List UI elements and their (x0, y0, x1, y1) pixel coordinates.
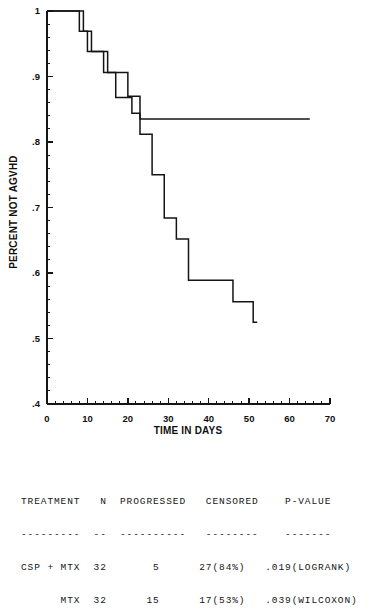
x-tick-label: 30 (163, 413, 174, 424)
x-tick-label: 70 (325, 413, 336, 424)
y-axis-tick-labels: .4.5.6.7.8.91 (32, 5, 41, 409)
table-row: MTX 32 15 17(53%) .039(WILCOXON) (21, 595, 373, 606)
x-tick-label: 40 (203, 413, 214, 424)
x-tick-label: 60 (284, 413, 295, 424)
x-axis-ticks (47, 398, 330, 404)
table-row: CSP + MTX 32 5 27(84%) .019(LOGRANK) (21, 562, 373, 573)
y-tick-label: .7 (32, 202, 40, 213)
table-header-row: TREATMENT N PROGRESSED CENSORED P-VALUE (21, 496, 373, 507)
y-tick-label: .5 (32, 333, 41, 344)
y-tick-label: .8 (32, 136, 40, 147)
y-axis-title: PERCENT NOT AGVHD (8, 155, 19, 269)
y-tick-label: 1 (35, 5, 41, 16)
curve-csp-plus-mtx (47, 11, 310, 119)
x-axis-title: TIME IN DAYS (154, 425, 223, 436)
survival-curves (47, 11, 310, 322)
x-tick-label: 0 (44, 413, 49, 424)
y-tick-label: .4 (32, 398, 41, 409)
y-axis-ticks (47, 11, 53, 404)
x-axis-tick-labels: 010203040506070 (44, 413, 335, 424)
x-tick-label: 10 (82, 413, 93, 424)
y-tick-label: .9 (32, 71, 40, 82)
x-tick-label: 50 (244, 413, 255, 424)
survival-plot: .4.5.6.7.8.91 010203040506070 TIME IN DA… (0, 0, 383, 440)
plot-axes (47, 11, 330, 404)
curve-mtx (47, 11, 257, 322)
x-tick-label: 20 (123, 413, 134, 424)
y-tick-label: .6 (32, 267, 40, 278)
table-header-rule: --------- -- ---------- -------- ------- (21, 529, 373, 540)
statistics-table: TREATMENT N PROGRESSED CENSORED P-VALUE … (21, 474, 373, 609)
